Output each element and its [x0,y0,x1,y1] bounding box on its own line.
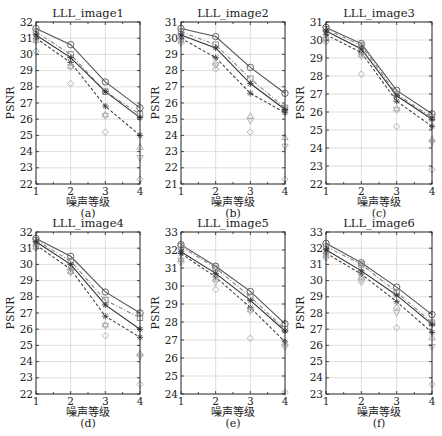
y-tick-label: 25 [20,339,33,351]
chart-panel-c: 222324252627282930311234LLL_image3PSNR噪声… [294,6,436,220]
y-axis-label: PSNR [149,86,162,120]
y-tick-label: 22 [20,178,33,190]
chart-panel-e: 242526272829303132331234LLL_image5PSNR噪声… [149,216,289,430]
y-tick-label: 23 [20,161,33,173]
x-tick-label: 1 [33,185,40,197]
y-tick-label: 28 [165,64,178,76]
chart-panel-d: 22232425262728293031321234LLL_image4PSNR… [4,216,144,430]
y-tick-label: 28 [20,80,33,92]
y-tick-label: 24 [20,145,34,157]
y-tick-label: 24 [20,355,34,367]
y-axis-label: PSNR [4,296,17,330]
y-tick-label: 22 [20,388,33,400]
y-tick-label: 25 [310,124,323,136]
x-tick-label: 1 [178,185,185,197]
chart-title: LLL_image5 [197,216,269,230]
y-tick-label: 25 [310,355,323,367]
chart-title: LLL_image4 [52,216,124,230]
subfigure-caption: (e) [225,417,240,430]
x-tick-label: 4 [137,395,144,407]
y-tick-label: 31 [310,16,323,28]
y-tick-label: 32 [20,226,33,238]
chart-title: LLL_image3 [343,6,415,20]
y-tick-label: 33 [165,226,178,238]
y-tick-label: 33 [310,226,323,238]
y-tick-label: 26 [165,97,179,109]
y-tick-label: 23 [310,388,323,400]
y-tick-label: 22 [310,178,323,190]
y-tick-label: 25 [165,370,178,382]
y-tick-label: 31 [310,258,323,270]
y-tick-label: 28 [165,316,178,328]
y-tick-label: 26 [310,106,324,118]
y-tick-label: 26 [20,323,34,335]
y-tick-label: 23 [20,371,33,383]
y-tick-label: 23 [165,145,178,157]
y-tick-label: 25 [20,129,33,141]
y-tick-label: 30 [165,32,178,44]
y-tick-label: 31 [165,262,178,274]
y-tick-label: 22 [165,161,178,173]
subfigure-caption: (f) [373,417,386,430]
y-tick-label: 31 [20,242,33,254]
y-tick-label: 32 [310,242,323,254]
y-tick-label: 27 [20,97,33,109]
x-tick-label: 4 [429,395,436,407]
y-axis-label: PSNR [294,86,307,120]
y-tick-label: 29 [165,298,178,310]
y-tick-label: 23 [310,160,323,172]
y-axis-label: PSNR [149,296,162,330]
y-tick-label: 32 [165,244,178,256]
x-tick-label: 4 [282,395,289,407]
x-tick-label: 4 [429,185,436,197]
chart-panel-f: 23242526272829303132331234LLL_image6PSNR… [294,216,436,430]
y-tick-label: 31 [20,32,33,44]
y-tick-label: 30 [310,274,323,286]
x-tick-label: 1 [178,395,185,407]
chart-panel-b: 21222324252627282930311234LLL_image2PSNR… [149,6,289,220]
y-tick-label: 30 [165,280,178,292]
subfigure-caption: (d) [80,417,96,430]
y-tick-label: 27 [165,80,178,92]
chart-panel-a: 22232425262728293031321234LLL_image1PSNR… [4,6,144,220]
y-tick-label: 27 [165,334,178,346]
y-tick-label: 29 [20,64,33,76]
y-tick-label: 21 [165,178,178,190]
y-tick-label: 24 [310,142,324,154]
x-tick-label: 1 [33,395,40,407]
y-tick-label: 26 [165,352,179,364]
chart-title: LLL_image2 [197,6,269,20]
chart-title: LLL_image1 [52,6,124,20]
y-tick-label: 28 [20,290,33,302]
y-tick-label: 25 [165,113,178,125]
y-axis-label: PSNR [4,86,17,120]
y-tick-label: 27 [310,323,323,335]
y-tick-label: 24 [165,388,179,400]
y-tick-label: 24 [310,371,324,383]
chart-title: LLL_image6 [343,216,415,230]
y-tick-label: 26 [20,113,34,125]
y-tick-label: 30 [20,48,33,60]
y-tick-label: 27 [20,307,33,319]
y-axis-label: PSNR [294,296,307,330]
y-tick-label: 24 [165,129,179,141]
y-tick-label: 27 [310,88,323,100]
x-tick-label: 4 [282,185,289,197]
y-tick-label: 29 [310,52,323,64]
y-tick-label: 30 [20,258,33,270]
x-tick-label: 1 [323,185,330,197]
figure-grid: 22232425262728293031321234LLL_image1PSNR… [0,0,442,436]
y-tick-label: 28 [310,70,323,82]
y-tick-label: 29 [310,290,323,302]
y-tick-label: 26 [310,339,324,351]
y-tick-label: 30 [310,34,323,46]
y-tick-label: 28 [310,307,323,319]
y-tick-label: 32 [20,16,33,28]
y-tick-label: 31 [165,16,178,28]
y-tick-label: 29 [20,274,33,286]
x-tick-label: 1 [323,395,330,407]
x-tick-label: 4 [137,185,144,197]
y-tick-label: 29 [165,48,178,60]
